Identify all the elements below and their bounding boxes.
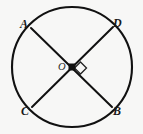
center-point-marker [69,64,76,71]
point-label-a: A [20,18,28,30]
point-label-c: C [21,105,29,117]
geometry-figure: A D C B O [0,0,143,134]
point-label-b: B [113,105,121,117]
point-label-d: D [113,17,122,29]
center-label-o: O [58,62,66,73]
